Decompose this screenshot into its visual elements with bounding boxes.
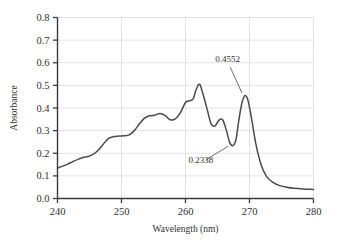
x-tick-label: 260 (178, 206, 194, 217)
x-tick-label: 250 (114, 206, 130, 217)
x-axis-title: Wavelength (nm) (153, 224, 219, 235)
y-axis-tick-labels: 0.00.10.20.30.40.50.60.70.8 (36, 12, 50, 204)
y-tick-label: 0.7 (36, 35, 49, 46)
x-tick-label: 270 (242, 206, 258, 217)
y-tick-label: 0.8 (36, 12, 49, 23)
y-tick-label: 0.0 (36, 193, 49, 204)
peak-annotation-label: 0.4552 (215, 54, 240, 64)
absorbance-spectrum-figure: 240250260270280 0.00.10.20.30.40.50.60.7… (0, 0, 338, 243)
valley-annotation-label: 0.2338 (188, 155, 213, 165)
chart-canvas: 240250260270280 0.00.10.20.30.40.50.60.7… (0, 0, 338, 243)
y-tick-label: 0.3 (36, 125, 49, 136)
x-tick-label: 280 (306, 206, 322, 217)
y-tick-label: 0.1 (36, 170, 49, 181)
y-tick-label: 0.2 (36, 148, 49, 159)
y-tick-label: 0.5 (36, 80, 49, 91)
y-axis-title: Absorbance (9, 85, 19, 130)
y-tick-label: 0.6 (36, 57, 49, 68)
x-tick-label: 240 (50, 206, 66, 217)
y-tick-label: 0.4 (36, 103, 50, 114)
